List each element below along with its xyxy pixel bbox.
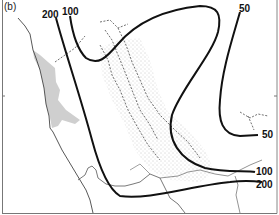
contour-label-200-west: 200 [42, 10, 59, 20]
stippled-region [100, 38, 215, 182]
panel-label: (b) [4, 1, 16, 12]
contour-label-200-south: 200 [256, 180, 273, 190]
contour-label-100-south: 100 [256, 167, 273, 177]
contour-label-100-west: 100 [62, 7, 79, 17]
contour-label-50-east: 50 [262, 130, 273, 140]
shaded-area [33, 50, 80, 128]
map-figure [0, 0, 279, 215]
contour-50 [220, 12, 258, 136]
contour-label-50-north: 50 [239, 4, 250, 14]
